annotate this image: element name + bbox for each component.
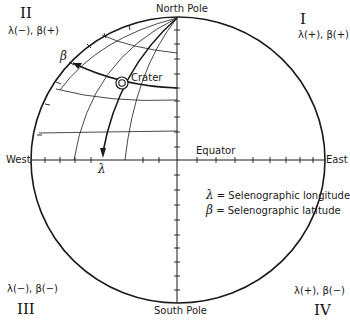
quadrant-III-numeral: III bbox=[17, 302, 35, 317]
south-pole-label: South Pole bbox=[154, 306, 207, 316]
legend-latitude-text: = Selenographic latitude bbox=[216, 205, 341, 216]
quadrant-I-numeral: I bbox=[300, 12, 306, 27]
legend: λ = Selenographic longitude β = Selenogr… bbox=[206, 188, 350, 218]
crater-label: Crater bbox=[131, 73, 162, 83]
quadrant-I-signs: λ(+), β(+) bbox=[298, 30, 349, 40]
legend-longitude-symbol: λ bbox=[206, 188, 214, 202]
quadrant-II-signs: λ(−), β(+) bbox=[8, 26, 59, 36]
longitude-symbol: λ bbox=[98, 163, 106, 175]
legend-latitude-symbol: β bbox=[206, 203, 213, 217]
quadrant-III-signs: λ(−), β(−) bbox=[7, 284, 58, 294]
legend-longitude-text: = Selenographic longitude bbox=[217, 190, 350, 201]
crater-icon bbox=[116, 77, 128, 89]
quadrant-IV-numeral: IV bbox=[314, 303, 331, 318]
quadrant-IV-signs: λ(+), β(−) bbox=[294, 286, 345, 296]
west-label: West bbox=[6, 155, 31, 165]
longitude-arrowhead bbox=[100, 148, 106, 158]
legend-row-longitude: λ = Selenographic longitude bbox=[206, 188, 350, 203]
equator-label: Equator bbox=[196, 146, 235, 156]
longitude-meridians bbox=[60, 18, 177, 160]
legend-row-latitude: β = Selenographic latitude bbox=[206, 203, 350, 218]
quadrant-II-numeral: II bbox=[20, 6, 32, 21]
latitude-symbol: β bbox=[60, 50, 67, 62]
north-pole-label: North Pole bbox=[156, 4, 208, 14]
east-label: East bbox=[326, 155, 348, 165]
